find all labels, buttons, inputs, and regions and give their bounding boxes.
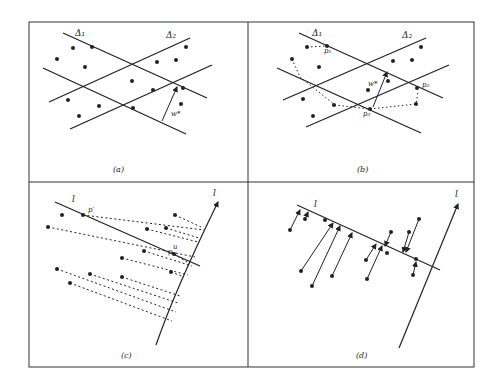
panel-c-points xyxy=(46,213,177,285)
panel-c-line-label: l xyxy=(72,195,75,204)
panel-c-axis-label: l xyxy=(213,189,216,198)
panel-c-pprime-label: p′ xyxy=(88,207,94,214)
panel-d-caption: (d) xyxy=(356,351,367,360)
panel-b-caption: (b) xyxy=(357,165,368,174)
panel-b-width-label: w* xyxy=(368,81,378,88)
panel-a-width-label: w* xyxy=(171,111,181,118)
panel-d-line-label: l xyxy=(314,200,317,209)
panel-c-projection-lines xyxy=(48,215,204,321)
panel-c-axis xyxy=(156,202,218,345)
panel-d-axis xyxy=(399,204,458,348)
panel-b-points xyxy=(290,44,423,118)
panel-d-lines xyxy=(297,205,440,270)
panel-b-delta1-label: Δ₁ xyxy=(312,29,322,38)
panel-b-delta2-label: Δ₂ xyxy=(402,31,412,40)
figure-frame xyxy=(29,22,474,367)
panel-d-projection-arrows xyxy=(290,210,419,286)
panel-c-caption: (c) xyxy=(121,351,132,360)
panel-b-width-arrow xyxy=(373,72,387,107)
panel-c-u-label: u xyxy=(173,244,178,251)
panel-c-p-label: p xyxy=(168,249,172,256)
panel-a-delta2-label: Δ₂ xyxy=(166,31,176,40)
panel-b-p3-label: p₃ xyxy=(363,111,370,118)
panel-b-p2-label: p₂ xyxy=(422,82,429,89)
panel-b-p1-label: p₁ xyxy=(324,48,331,55)
panel-a-caption: (a) xyxy=(113,165,124,174)
panel-d-axis-label: l xyxy=(455,190,458,199)
panel-a-delta1-label: Δ₁ xyxy=(75,29,85,38)
